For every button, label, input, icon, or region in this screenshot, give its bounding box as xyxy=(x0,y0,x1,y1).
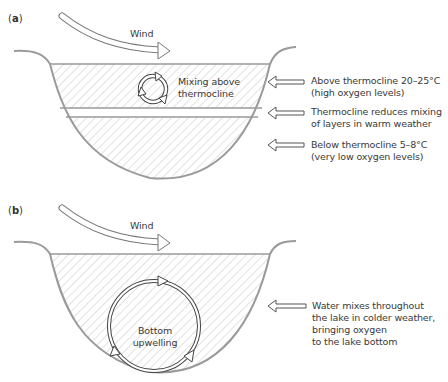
upwelling-label-line1: Bottom xyxy=(130,325,180,337)
annotation-cold-weather-mixing: Water mixes throughout the lake in colde… xyxy=(312,300,435,348)
mixing-label-line2: thermocline xyxy=(178,88,240,100)
panel-a-label: (a) xyxy=(8,13,23,24)
annotation-line: Above thermocline 20–25°C xyxy=(311,75,440,87)
annotation-arrow-icon xyxy=(268,107,304,119)
annotation-thermocline: Thermocline reduces mixing of layers in … xyxy=(311,106,442,130)
mixing-label: Mixing above thermocline xyxy=(178,76,240,100)
annotation-line: Thermocline reduces mixing xyxy=(311,106,442,118)
annotation-line: the lake in colder weather, xyxy=(312,312,435,324)
annotation-line: (high oxygen levels) xyxy=(311,87,440,99)
panel-a-lake xyxy=(14,47,296,187)
wind-label: Wind xyxy=(130,220,153,232)
wind-label: Wind xyxy=(130,28,153,40)
annotation-line: Water mixes throughout xyxy=(312,300,435,312)
wind-arrow-icon xyxy=(62,16,170,59)
annotation-line: Below thermocline 5–8°C xyxy=(311,139,427,151)
water-hatch xyxy=(40,254,280,379)
annotation-line: (very low oxygen levels) xyxy=(311,151,427,163)
annotation-above-thermocline: Above thermocline 20–25°C (high oxygen l… xyxy=(311,75,440,99)
panel-b-label: (b) xyxy=(8,205,23,216)
annotation-line: bringing oxygen xyxy=(312,324,435,336)
upwelling-label-line2: upwelling xyxy=(130,337,180,349)
annotation-below-thermocline: Below thermocline 5–8°C (very low oxygen… xyxy=(311,139,427,163)
upwelling-label: Bottom upwelling xyxy=(130,325,180,349)
annotation-arrow-icon xyxy=(268,139,304,151)
wind-arrow-icon xyxy=(62,208,170,251)
annotation-line: to the lake bottom xyxy=(312,336,435,348)
annotation-arrow-icon xyxy=(268,76,304,88)
annotation-arrow-icon xyxy=(268,300,306,312)
mixing-label-line1: Mixing above xyxy=(178,76,240,88)
panel-b-lake xyxy=(14,241,296,379)
annotation-line: of layers in warm weather xyxy=(311,118,442,130)
